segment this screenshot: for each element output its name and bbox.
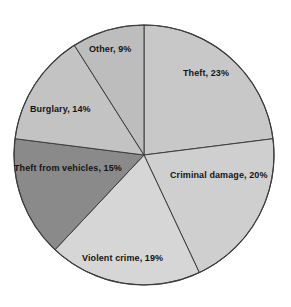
slice-label-theft-from-vehicles: Theft from vehicles, 15% xyxy=(14,163,122,173)
slice-label-violent-crime: Violent crime, 19% xyxy=(82,253,163,263)
pie-chart-figure: Theft, 23% Criminal damage, 20% Violent … xyxy=(0,0,291,307)
slice-label-criminal-damage: Criminal damage, 20% xyxy=(170,170,268,180)
slice-label-burglary: Burglary, 14% xyxy=(30,104,91,114)
slice-label-theft: Theft, 23% xyxy=(183,68,229,78)
pie-slice-theft xyxy=(144,25,273,155)
pie-slice-group xyxy=(14,25,274,285)
slice-label-other: Other, 9% xyxy=(89,44,131,54)
